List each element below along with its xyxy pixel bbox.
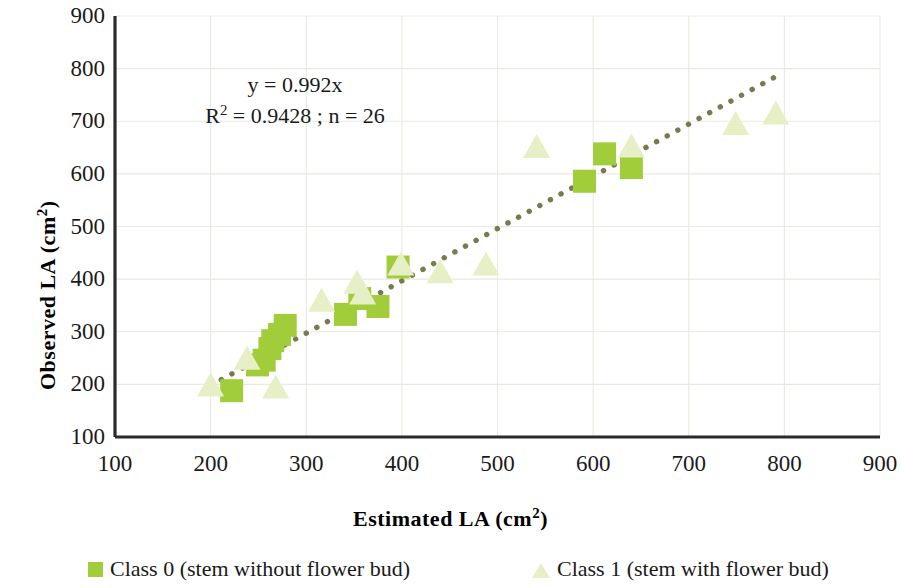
x-axis-title-tail: ) <box>540 506 548 531</box>
regression-annotation: y = 0.992x R2 = 0.9428 ; n = 26 <box>150 70 440 131</box>
y-tick-label-900: 900 <box>45 4 105 27</box>
data-point-square <box>274 314 297 337</box>
x-axis-title-sup: 2 <box>532 505 540 521</box>
annotation-r2-tail: = 0.9428 ; n = 26 <box>227 103 384 128</box>
y-tick-label-700: 700 <box>45 109 105 132</box>
x-tick-label-200: 200 <box>176 452 246 475</box>
legend-triangle-marker-icon <box>532 563 550 578</box>
x-tick-label-600: 600 <box>558 452 628 475</box>
x-tick-label-400: 400 <box>367 452 437 475</box>
data-point-square <box>620 156 643 179</box>
data-point-triangle <box>618 134 645 158</box>
data-point-triangle <box>762 100 789 124</box>
y-axis-title-tail: ) <box>35 200 60 208</box>
legend-square-marker-icon <box>88 562 103 577</box>
x-tick-label-900: 900 <box>845 452 901 475</box>
annotation-equation: y = 0.992x <box>150 70 440 100</box>
data-point-triangle <box>262 375 289 399</box>
x-axis-title: Estimated LA (cm2) <box>0 505 901 532</box>
x-tick-label-300: 300 <box>271 452 341 475</box>
data-point-square <box>593 142 616 165</box>
data-point-triangle <box>308 288 335 312</box>
x-tick-label-700: 700 <box>654 452 724 475</box>
x-tick-label-100: 100 <box>80 452 150 475</box>
annotation-r2-base: R <box>205 103 220 128</box>
data-point-square <box>220 379 243 402</box>
legend-entry-class-0[interactable]: Class 0 (stem without flower bud) <box>88 556 410 582</box>
chart-legend: Class 0 (stem without flower bud) Class … <box>0 556 901 588</box>
x-tick-label-500: 500 <box>463 452 533 475</box>
y-axis-title-sup: 2 <box>34 208 50 216</box>
x-tick-label-800: 800 <box>749 452 819 475</box>
scatter-chart: 100200300400500600700800900 100200300400… <box>0 0 901 588</box>
y-tick-label-600: 600 <box>45 162 105 185</box>
y-axis-title-base: Observed LA (cm <box>35 216 60 390</box>
legend-entry-class-1[interactable]: Class 1 (stem with flower bud) <box>532 556 829 582</box>
legend-label-class-1: Class 1 (stem with flower bud) <box>557 556 829 582</box>
data-point-triangle <box>427 259 454 283</box>
data-point-triangle <box>523 134 550 158</box>
data-point-square <box>573 170 596 193</box>
series-1-markers <box>197 100 789 398</box>
series-0-markers <box>220 142 643 402</box>
y-axis-title: Observed LA (cm2) <box>34 200 61 390</box>
plot-area <box>0 0 901 588</box>
data-point-triangle <box>722 111 749 135</box>
legend-label-class-0: Class 0 (stem without flower bud) <box>110 556 410 582</box>
x-axis-title-base: Estimated LA (cm <box>353 506 532 531</box>
data-point-triangle <box>473 251 500 275</box>
annotation-r2: R2 = 0.9428 ; n = 26 <box>150 100 440 131</box>
y-tick-label-100: 100 <box>45 425 105 448</box>
y-tick-label-800: 800 <box>45 57 105 80</box>
